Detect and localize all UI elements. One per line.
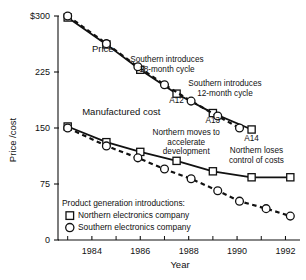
x-tick-label: 1990: [227, 246, 247, 256]
legend-label: Southern electronics company: [78, 222, 191, 232]
annotation-manufactured-cost: Manufactured cost: [82, 106, 161, 117]
marker-circle: [64, 124, 72, 132]
x-tick-label: 1988: [179, 246, 199, 256]
y-tick-label: 225: [35, 67, 50, 77]
annotation-northern-accelerate: accelerate: [167, 138, 205, 147]
annotation-southern-18-month: 18-month cycle: [139, 65, 195, 74]
annotation-northern-accelerate: development: [163, 147, 211, 156]
x-tick-label: 1992: [275, 246, 295, 256]
marker-circle: [161, 81, 169, 89]
marker-circle: [286, 212, 294, 220]
marker-circle: [262, 205, 270, 213]
marker-square: [287, 174, 294, 181]
marker-circle: [187, 97, 195, 105]
annotation-northern-loses-control: Northern loses: [230, 146, 283, 155]
annotation-southern-12-month: 12-month cycle: [197, 89, 253, 98]
legend-label: Northern electronics company: [78, 210, 190, 220]
point-label-a14: A14: [244, 134, 259, 143]
marker-square: [209, 168, 216, 175]
x-tick-label: 1984: [82, 246, 102, 256]
marker-circle: [161, 165, 169, 173]
point-label-a12: A12: [169, 96, 184, 105]
marker-square: [173, 157, 180, 164]
marker-square: [248, 174, 255, 181]
legend-marker-circle: [66, 224, 74, 232]
x-axis-label: Year: [170, 259, 189, 270]
x-tick-label: 1986: [130, 246, 150, 256]
annotation-southern-18-month: Southern introduces: [130, 55, 203, 64]
marker-circle: [187, 175, 195, 183]
y-tick-label: 75: [40, 179, 50, 189]
annotation-northern-loses-control: control of costs: [229, 156, 284, 165]
marker-circle: [134, 154, 142, 162]
chart-container: 075150225$300 19841986198819901992 Price…: [0, 0, 306, 280]
legend-marker-square: [66, 212, 74, 220]
annotation-northern-accelerate: Northern moves to: [153, 128, 221, 137]
price-cost-line-chart: 075150225$300 19841986198819901992 Price…: [0, 0, 306, 280]
point-label-a13: A13: [206, 116, 221, 125]
marker-circle: [64, 12, 72, 20]
legend-title: Product generation introductions:: [62, 198, 185, 208]
marker-circle: [236, 197, 244, 205]
marker-circle: [103, 142, 111, 150]
y-tick-label: 0: [45, 235, 50, 245]
chart-legend: Product generation introductions:Norther…: [62, 198, 191, 232]
y-tick-label: $300: [30, 11, 50, 21]
annotation-southern-12-month: Southern introduces: [188, 79, 261, 88]
y-tick-label: 150: [35, 123, 50, 133]
marker-circle: [236, 124, 244, 132]
y-axis-label: Price /cost: [7, 117, 18, 162]
annotation-price: Price: [92, 43, 114, 54]
marker-circle: [214, 187, 222, 195]
marker-square: [248, 126, 255, 133]
